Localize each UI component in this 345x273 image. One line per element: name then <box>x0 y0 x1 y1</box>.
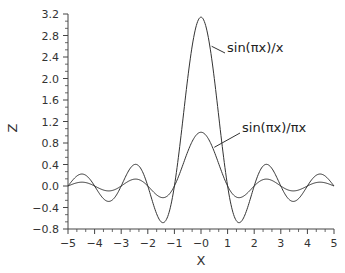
y-tick-label: 2.8 <box>42 30 60 43</box>
x-tick-label: −4 <box>86 237 102 250</box>
annotation-leader-line <box>212 46 225 53</box>
x-tick-label: −5 <box>60 237 76 250</box>
y-axis-label: Z <box>5 123 20 132</box>
annotation-leader-line <box>214 133 240 147</box>
y-tick-label: −0.4 <box>32 202 59 215</box>
y-axis: −0.8−0.40.00.40.81.21.62.02.42.83.2 <box>32 8 68 236</box>
x-tick-label: 5 <box>331 237 338 250</box>
y-tick-label: 3.2 <box>42 8 60 21</box>
x-axis-label: X <box>197 253 206 268</box>
y-tick-label: −0.8 <box>32 223 59 236</box>
x-tick-label: −2 <box>140 237 156 250</box>
x-tick-label: 4 <box>304 237 311 250</box>
y-tick-label: 2.4 <box>42 51 60 64</box>
x-tick-label: 3 <box>277 237 284 250</box>
annotations: sin(πx)/xsin(πx)/πx <box>212 40 307 147</box>
x-tick-label: 2 <box>251 237 258 250</box>
x-tick-label: 1 <box>224 237 231 250</box>
y-tick-label: 0.0 <box>42 180 60 193</box>
series-line-sin-pix-over-pix <box>68 132 334 197</box>
sinc-chart: −0.8−0.40.00.40.81.21.62.02.42.83.2 −5−4… <box>0 0 345 273</box>
y-tick-label: 0.8 <box>42 137 60 150</box>
y-tick-label: 2.0 <box>42 73 60 86</box>
y-tick-label: 0.4 <box>42 159 60 172</box>
x-tick-label: −0 <box>193 237 209 250</box>
annotation-label: sin(πx)/πx <box>242 120 306 135</box>
annotation-label: sin(πx)/x <box>227 40 284 55</box>
y-tick-label: 1.2 <box>42 116 60 129</box>
x-tick-label: −3 <box>113 237 129 250</box>
x-axis: −5−4−3−2−1−012345 <box>60 229 338 250</box>
y-tick-label: 1.6 <box>42 94 60 107</box>
x-tick-label: −1 <box>166 237 182 250</box>
